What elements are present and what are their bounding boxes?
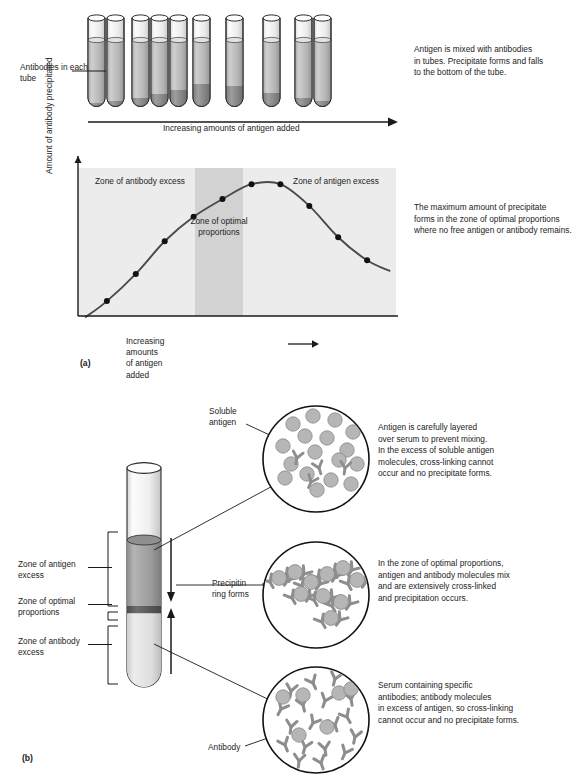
panel-a-right-caption: Antigen is mixed with antibodies in tube… <box>414 44 564 79</box>
chart-axes <box>68 156 408 328</box>
tube-label-zone-antigen-excess: Zone of antigen excess <box>18 559 110 581</box>
panel-b-interfacial-test: Zone of antigen excess Zone of optimal p… <box>0 390 567 776</box>
antigen-molecule <box>306 409 320 423</box>
magnified-circle-antigen-excess <box>261 402 371 518</box>
antigen-molecule <box>272 571 287 586</box>
antigen-molecule <box>328 413 342 427</box>
test-tube-rack <box>88 14 398 114</box>
antigen-molecule <box>308 445 322 459</box>
antigen-molecule <box>298 429 312 443</box>
x-axis-arrow-icon <box>288 339 320 349</box>
test-tube-5 <box>170 15 187 107</box>
test-tube-6 <box>193 15 210 107</box>
test-tube-3 <box>132 15 149 107</box>
antigen-molecule <box>278 471 292 485</box>
antigen-molecule <box>286 417 300 431</box>
precipitin-ring-leader <box>176 582 268 588</box>
antigen-molecule <box>294 587 309 602</box>
antigen-molecule <box>296 688 310 702</box>
antigen-molecule <box>304 575 319 590</box>
antigen-molecule <box>276 690 290 704</box>
panel-a-key: (a) <box>80 358 91 368</box>
magnified-circle-antibody-excess <box>261 665 371 775</box>
antigen-molecule <box>320 720 334 734</box>
circle-caption-middle: In the zone of optimal proportions, anti… <box>378 558 556 604</box>
callout-antibody: Antibody <box>208 742 240 753</box>
circle-caption-bottom: Serum containing specific antibodies; an… <box>378 680 556 726</box>
antigen-molecule <box>292 728 306 742</box>
magnified-circle-optimal <box>261 538 371 654</box>
antigen-molecule <box>316 589 331 604</box>
antigen-molecule <box>344 682 358 696</box>
antigen-molecule <box>324 473 338 487</box>
test-tube-8 <box>263 15 280 107</box>
antigen-molecule <box>288 565 303 580</box>
tube-label-zone-optimal-proportions: Zone of optimal proportions <box>18 596 110 618</box>
panel-b-key: (b) <box>22 753 33 763</box>
test-tube-1 <box>88 15 105 107</box>
test-tube-2 <box>107 15 124 107</box>
test-tube-10 <box>314 15 331 107</box>
antigen-molecule <box>336 561 351 576</box>
chart-x-axis-label: Increasing amounts of antigen added <box>126 336 164 381</box>
antigen-molecule <box>350 457 364 471</box>
zone-optimal-leader <box>88 602 112 607</box>
antigen-molecule <box>334 595 349 610</box>
antigen-molecule <box>276 439 290 453</box>
test-tube-9 <box>295 15 312 107</box>
antigen-molecule <box>310 483 324 497</box>
antigen-molecule <box>320 431 334 445</box>
panel-a-precipitin-curve: Antibodies in each tube Antigen is mixed… <box>0 0 567 385</box>
antigen-molecule <box>350 573 365 588</box>
rack-axis-label: Increasing amounts of antigen added <box>163 123 300 134</box>
chart-y-axis-label: Amount of antibody precipitated <box>44 26 54 174</box>
antibodies-leader-line <box>72 68 106 74</box>
antigen-molecule <box>344 477 358 491</box>
test-tube-7 <box>226 15 243 107</box>
antigen-molecule <box>320 567 335 582</box>
zone-antibody-leader <box>88 642 112 647</box>
tube-label-zone-antibody-excess: Zone of antibody excess <box>18 636 110 658</box>
antigen-molecule <box>324 611 339 626</box>
circle-caption-top: Antigen is carefully layered over serum … <box>378 422 556 480</box>
test-tube-4 <box>151 15 168 107</box>
antigen-molecule <box>300 467 314 481</box>
zone-antigen-leader <box>88 565 112 570</box>
chart-side-note: The maximum amount of precipitate forms … <box>414 202 576 237</box>
